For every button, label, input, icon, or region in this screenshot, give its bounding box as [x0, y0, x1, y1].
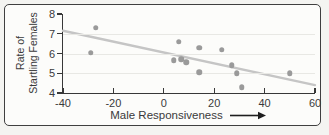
scatter-point: [93, 25, 99, 31]
x-axis-tick: [62, 88, 63, 93]
y-axis-title-line1: Rate of: [14, 12, 27, 94]
scatter-point: [184, 60, 190, 66]
x-axis-title: Male Responsiveness: [110, 109, 223, 121]
plot-area: -40-20020406087654: [62, 14, 315, 94]
scatter-point: [171, 58, 177, 64]
scatter-point: [88, 50, 94, 56]
y-axis-tick: [57, 33, 62, 34]
y-axis-tick: [57, 13, 62, 14]
scatter-point: [234, 71, 240, 77]
right-arrow-icon: [230, 111, 266, 120]
x-axis-title-row: Male Responsiveness: [62, 108, 314, 122]
scatter-point: [176, 39, 182, 45]
x-axis-tick: [314, 88, 315, 93]
scatter-point: [287, 71, 293, 77]
figure-canvas: Rate of Startling Females -40-2002040608…: [0, 0, 329, 135]
scatter-point: [196, 45, 202, 51]
y-tick-label: 6: [35, 48, 55, 60]
x-axis-tick: [163, 88, 164, 93]
y-tick-label: 5: [35, 67, 55, 79]
y-axis-tick: [57, 92, 62, 93]
y-tick-label: 7: [35, 28, 55, 40]
x-axis-tick: [264, 88, 265, 93]
x-axis-tick: [113, 88, 114, 93]
y-axis-tick: [57, 53, 62, 54]
y-tick-label: 8: [35, 8, 55, 20]
y-tick-label: 4: [35, 87, 55, 99]
scatter-point: [229, 63, 235, 69]
scatter-point: [239, 84, 245, 90]
scatter-point: [196, 70, 202, 76]
scatter-point: [219, 47, 225, 53]
trend-line: [63, 14, 315, 93]
x-axis-tick: [214, 88, 215, 93]
y-axis-tick: [57, 73, 62, 74]
